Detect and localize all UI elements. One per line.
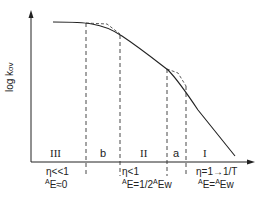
region-label-ii: II — [140, 148, 147, 159]
condition-iii-e: AE≈0 — [45, 178, 67, 190]
condition-ii-eta: η<1 — [122, 167, 139, 177]
region-label-i: I — [203, 148, 207, 159]
condition-ii-e: AE=1/2AEw — [122, 178, 172, 190]
condition-i-e: AE=AEw — [198, 178, 234, 190]
y-axis-label: log kov — [4, 62, 15, 92]
region-label-b: b — [100, 148, 106, 159]
y-axis-arrow-icon — [29, 10, 34, 18]
condition-i-eta: η=1→1/T — [196, 167, 237, 177]
region-label-a: a — [173, 148, 179, 159]
condition-iii-eta: η<<1 — [46, 167, 69, 177]
x-axis-arrow-icon — [247, 160, 255, 165]
region-label-iii: III — [50, 148, 61, 159]
log-kov-curve — [53, 22, 235, 156]
